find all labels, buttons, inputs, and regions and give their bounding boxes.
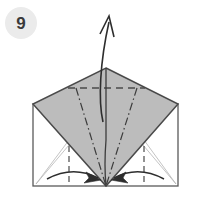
diagram-canvas: 9	[0, 0, 201, 198]
step-number-badge: 9	[5, 7, 37, 39]
step-badge-label: 9	[16, 14, 25, 33]
origami-diagram-figure: 9	[0, 0, 201, 198]
